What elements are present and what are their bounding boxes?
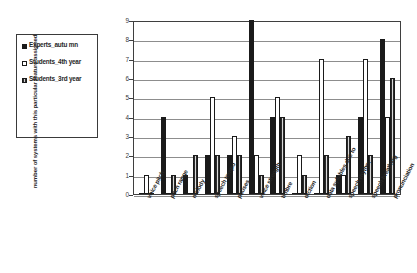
bar-group bbox=[136, 22, 158, 194]
bar-group bbox=[201, 22, 223, 194]
y-tick-mark bbox=[129, 79, 133, 80]
y-tick-mark bbox=[129, 118, 133, 119]
bar bbox=[161, 117, 166, 194]
bar bbox=[280, 117, 285, 194]
bar-group bbox=[289, 22, 311, 194]
y-tick-mark bbox=[129, 156, 133, 157]
y-tick-mark bbox=[129, 195, 133, 196]
y-tick-mark bbox=[129, 137, 133, 138]
bar-group bbox=[158, 22, 180, 194]
x-axis-tick-labels: voice pitchpitch rangemelodyspeech tempo… bbox=[133, 196, 401, 272]
hatched-square-key-icon bbox=[22, 78, 27, 83]
y-tick-mark bbox=[129, 98, 133, 99]
bar-group bbox=[245, 22, 267, 194]
black-square-key-icon bbox=[22, 44, 27, 49]
y-tick-mark bbox=[129, 40, 133, 41]
bar-group bbox=[311, 22, 333, 194]
bar bbox=[390, 78, 395, 194]
y-tick-mark bbox=[129, 60, 133, 61]
white-square-key-icon bbox=[22, 61, 27, 66]
y-axis-tick-labels: 9876543210 bbox=[115, 14, 131, 202]
y-axis-title: number of systems with this particular f… bbox=[31, 21, 38, 203]
chart-legend: Experts_autu mn Students_4th year Studen… bbox=[16, 34, 98, 138]
y-tick-mark bbox=[129, 176, 133, 177]
y-tick-mark bbox=[129, 21, 133, 22]
